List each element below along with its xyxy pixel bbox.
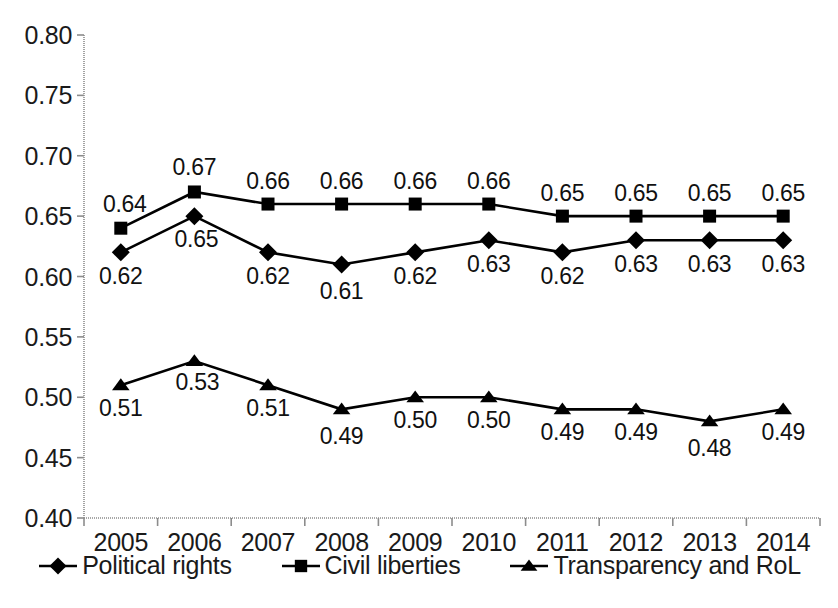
- diamond-marker: [480, 231, 498, 249]
- plot-area: [0, 0, 838, 608]
- point-value-label: 0.65: [748, 182, 818, 205]
- point-value-label: 0.66: [307, 170, 377, 193]
- square-marker: [335, 198, 348, 211]
- legend-diamond-icon: [37, 554, 79, 578]
- square-marker: [114, 222, 127, 235]
- point-value-label: 0.51: [86, 397, 156, 420]
- square-marker: [409, 198, 422, 211]
- y-tick-label: 0.60: [8, 265, 72, 290]
- point-value-label: 0.49: [307, 425, 377, 448]
- point-value-label: 0.51: [233, 397, 303, 420]
- legend-label: Political rights: [82, 553, 231, 578]
- diamond-marker: [333, 255, 351, 273]
- legend-item-1[interactable]: Political rights: [37, 553, 231, 578]
- legend-triangle-icon: [508, 554, 550, 578]
- point-value-label: 0.62: [233, 265, 303, 288]
- chart-legend: Political rightsCivil libertiesTranspare…: [0, 553, 838, 578]
- point-value-label: 0.66: [233, 170, 303, 193]
- legend-item-3[interactable]: Transparency and RoL: [508, 553, 800, 578]
- y-tick-label: 0.50: [8, 385, 72, 410]
- point-value-label: 0.63: [675, 253, 745, 276]
- y-tick-label: 0.80: [8, 23, 72, 48]
- diamond-marker: [259, 243, 277, 261]
- square-marker: [482, 198, 495, 211]
- point-value-label: 0.65: [675, 182, 745, 205]
- point-value-label: 0.49: [601, 421, 671, 444]
- x-tick-label: 2007: [231, 530, 305, 555]
- x-tick-label: 2010: [452, 530, 526, 555]
- point-value-label: 0.50: [380, 409, 450, 432]
- point-value-label: 0.66: [454, 170, 524, 193]
- triangle-marker: [186, 354, 204, 366]
- y-tick-label: 0.40: [8, 506, 72, 531]
- square-marker: [777, 210, 790, 223]
- triangle-marker: [774, 403, 792, 415]
- point-value-label: 0.66: [380, 170, 450, 193]
- point-value-label: 0.48: [675, 437, 745, 460]
- point-value-label: 0.61: [307, 280, 377, 303]
- point-value-label: 0.53: [162, 371, 232, 394]
- point-value-label: 0.49: [748, 421, 818, 444]
- legend-label: Civil liberties: [325, 553, 461, 578]
- point-value-label: 0.62: [380, 265, 450, 288]
- diamond-marker: [112, 243, 130, 261]
- diamond-marker: [774, 231, 792, 249]
- point-value-label: 0.65: [601, 182, 671, 205]
- square-marker: [630, 210, 643, 223]
- point-value-label: 0.65: [161, 228, 231, 251]
- legend-item-2[interactable]: Civil liberties: [280, 553, 461, 578]
- y-tick-label: 0.55: [8, 325, 72, 350]
- diamond-marker: [406, 243, 424, 261]
- point-value-label: 0.67: [159, 156, 229, 179]
- point-value-label: 0.63: [454, 253, 524, 276]
- diamond-marker: [553, 243, 571, 261]
- diamond-marker: [701, 231, 719, 249]
- square-marker: [703, 210, 716, 223]
- diamond-marker: [627, 231, 645, 249]
- point-value-label: 0.62: [86, 265, 156, 288]
- point-value-label: 0.63: [748, 253, 818, 276]
- point-value-label: 0.49: [527, 421, 597, 444]
- square-marker: [188, 185, 201, 198]
- square-marker: [556, 210, 569, 223]
- point-value-label: 0.64: [90, 193, 160, 216]
- y-tick-label: 0.65: [8, 204, 72, 229]
- square-marker: [294, 559, 306, 571]
- diamond-marker: [185, 207, 203, 225]
- y-tick-label: 0.45: [8, 446, 72, 471]
- point-value-label: 0.62: [527, 265, 597, 288]
- diamond-marker: [50, 557, 67, 574]
- point-value-label: 0.63: [601, 253, 671, 276]
- point-value-label: 0.65: [527, 182, 597, 205]
- legend-square-icon: [280, 554, 322, 578]
- line-chart: 0.800.750.700.650.600.550.500.450.40 200…: [0, 0, 838, 608]
- point-value-label: 0.50: [454, 409, 524, 432]
- y-tick-label: 0.75: [8, 83, 72, 108]
- square-marker: [262, 198, 275, 211]
- legend-label: Transparency and RoL: [553, 553, 800, 578]
- y-tick-label: 0.70: [8, 144, 72, 169]
